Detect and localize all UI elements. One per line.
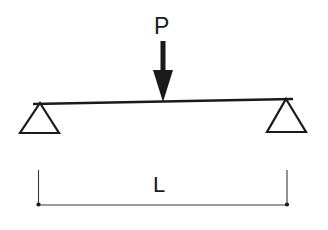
dimension-endpoint-dot-right bbox=[285, 202, 289, 206]
span-label: L bbox=[153, 174, 166, 196]
pin-support-left bbox=[20, 103, 59, 133]
beam-diagram: P L bbox=[0, 0, 328, 230]
load-label: P bbox=[154, 15, 170, 38]
dimension-endpoint-dot-left bbox=[36, 202, 40, 206]
pin-support-right bbox=[267, 99, 306, 132]
load-arrow-head bbox=[153, 70, 173, 102]
load-arrow-shaft bbox=[161, 41, 166, 73]
